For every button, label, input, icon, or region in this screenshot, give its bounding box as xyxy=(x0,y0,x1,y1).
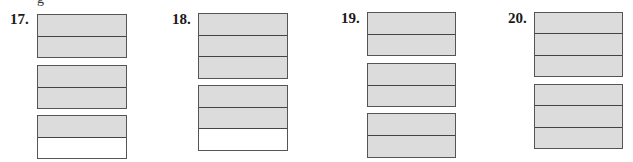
shaded-part xyxy=(535,105,622,126)
shaded-part xyxy=(535,85,622,105)
shaded-part xyxy=(199,56,287,78)
fraction-strip xyxy=(37,65,127,109)
shaded-part xyxy=(368,114,455,135)
unshaded-part xyxy=(199,128,287,150)
shaded-part xyxy=(368,85,455,107)
fraction-strip xyxy=(534,12,623,77)
shaded-part xyxy=(535,127,622,148)
problem-number: 19. xyxy=(341,11,360,26)
problem-number: 20. xyxy=(508,11,527,26)
fraction-strip xyxy=(367,63,456,107)
shaded-part xyxy=(368,64,455,85)
shaded-part xyxy=(38,116,126,137)
shaded-part xyxy=(199,86,287,107)
cutoff-text: g xyxy=(37,0,44,7)
shaded-part xyxy=(535,13,622,33)
problem-number: 18. xyxy=(172,12,191,27)
fraction-strip xyxy=(367,113,456,158)
shaded-part xyxy=(368,135,455,157)
shaded-part xyxy=(535,55,622,76)
shaded-part xyxy=(38,66,126,87)
fraction-strip xyxy=(37,14,127,58)
problem-number: 17. xyxy=(10,12,29,27)
fraction-strip xyxy=(534,84,623,149)
fraction-strip xyxy=(198,13,288,79)
shaded-part xyxy=(199,14,287,35)
shaded-part xyxy=(38,15,126,36)
fraction-strip xyxy=(37,115,127,159)
shaded-part xyxy=(199,35,287,57)
shaded-part xyxy=(368,34,455,56)
fraction-strip xyxy=(367,12,456,56)
shaded-part xyxy=(38,36,126,58)
unshaded-part xyxy=(38,137,126,159)
shaded-part xyxy=(535,33,622,54)
shaded-part xyxy=(38,87,126,109)
shaded-part xyxy=(199,107,287,129)
fraction-strip xyxy=(198,85,288,151)
shaded-part xyxy=(368,13,455,34)
